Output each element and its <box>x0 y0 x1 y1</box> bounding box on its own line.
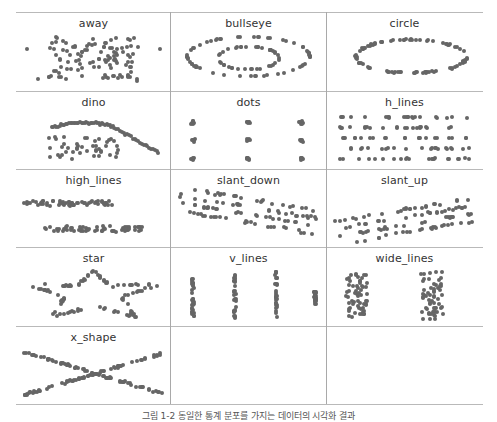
data-point <box>49 74 53 78</box>
data-point <box>428 302 432 306</box>
data-point <box>181 201 185 205</box>
data-point <box>190 310 194 314</box>
data-point <box>311 209 315 213</box>
data-point <box>346 295 350 299</box>
data-point <box>432 70 436 74</box>
data-point <box>36 77 40 81</box>
data-point <box>85 149 89 153</box>
panel-title: v_lines <box>171 252 326 265</box>
data-point <box>418 136 422 140</box>
data-point <box>120 75 124 79</box>
data-point <box>97 57 101 61</box>
data-point <box>108 153 112 157</box>
data-point <box>428 271 432 275</box>
data-point <box>221 201 225 205</box>
scatter-panel-dino: dino <box>16 92 171 170</box>
data-point <box>68 53 72 57</box>
data-point <box>239 196 243 200</box>
data-point <box>45 387 49 391</box>
data-point <box>66 146 70 150</box>
data-point <box>343 218 347 222</box>
data-point <box>192 121 196 125</box>
data-point <box>348 125 352 129</box>
data-point <box>112 139 116 143</box>
data-point <box>411 126 415 130</box>
scatter-panel-slant-down: slant_down <box>171 170 326 248</box>
data-point <box>108 224 112 228</box>
data-point <box>66 60 70 64</box>
data-point <box>95 228 99 232</box>
data-point <box>267 64 271 68</box>
data-point <box>467 157 471 161</box>
data-point <box>133 225 137 229</box>
data-point <box>116 283 120 287</box>
data-point <box>421 317 425 321</box>
scatter-panel-dots: dots <box>171 92 326 170</box>
data-point <box>348 225 352 229</box>
data-point <box>231 203 235 207</box>
data-point <box>453 65 457 69</box>
data-point <box>424 306 428 310</box>
data-point <box>102 45 106 49</box>
data-point <box>190 291 194 295</box>
data-point <box>455 198 459 202</box>
figure-caption: 그림 1-2 동일한 통계 분포를 가지는 데이터의 시각화 결과 <box>0 409 497 422</box>
data-point <box>115 61 119 65</box>
data-point <box>358 281 362 285</box>
data-point <box>147 388 151 392</box>
data-point <box>130 360 134 364</box>
data-point <box>438 203 442 207</box>
data-point <box>82 375 86 379</box>
data-point <box>260 46 264 50</box>
data-point <box>52 47 56 51</box>
data-point <box>109 376 113 380</box>
data-point <box>57 227 61 231</box>
data-point <box>440 210 444 214</box>
data-point <box>48 146 52 150</box>
scatter-plot-area <box>335 33 474 85</box>
data-point <box>62 135 66 139</box>
data-point <box>214 215 218 219</box>
data-point <box>52 229 56 233</box>
data-point <box>402 224 406 228</box>
data-point <box>463 60 467 64</box>
data-point <box>193 188 197 192</box>
data-point <box>341 136 345 140</box>
data-point <box>298 65 302 69</box>
data-point <box>441 312 445 316</box>
data-point <box>70 157 74 161</box>
data-point <box>258 67 262 71</box>
data-point <box>361 231 365 235</box>
data-point <box>459 221 463 225</box>
data-point <box>344 226 348 230</box>
chart-grid: awaybullseyecircledinodotsh_lineshigh_li… <box>16 12 483 404</box>
data-point <box>362 312 366 316</box>
data-point <box>361 285 365 289</box>
data-point <box>43 282 47 286</box>
data-point <box>126 73 130 77</box>
data-point <box>97 65 101 69</box>
data-point <box>404 216 408 220</box>
scatter-panel-v-lines: v_lines <box>171 248 326 326</box>
data-point <box>36 203 40 207</box>
data-point <box>209 39 213 43</box>
data-point <box>54 360 58 364</box>
data-point <box>373 157 377 161</box>
data-point <box>347 289 351 293</box>
data-point <box>274 270 278 274</box>
data-point <box>179 192 183 196</box>
scatter-panel-wide-lines: wide_lines <box>327 248 482 326</box>
scatter-plot-area <box>179 190 318 242</box>
data-point <box>360 146 364 150</box>
data-point <box>420 146 424 150</box>
data-point <box>433 225 437 229</box>
data-point <box>126 302 130 306</box>
data-point <box>431 39 435 43</box>
data-point <box>122 283 126 287</box>
data-point <box>363 126 367 130</box>
data-point <box>384 115 388 119</box>
data-point <box>234 211 238 215</box>
data-point <box>233 273 237 277</box>
data-point <box>86 228 90 232</box>
data-point <box>246 156 250 160</box>
